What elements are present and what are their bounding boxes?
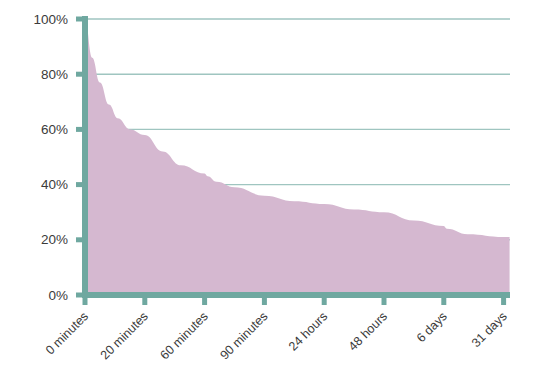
y-tick-label: 60% — [41, 122, 68, 137]
chart-canvas: 0%20%40%60%80%100% 0 minutes20 minutes60… — [0, 0, 535, 390]
y-tick-label: 40% — [41, 177, 68, 192]
y-tick-label: 100% — [33, 12, 68, 27]
y-tick-label: 80% — [41, 67, 68, 82]
y-tick-label: 20% — [41, 232, 68, 247]
chart-background — [0, 0, 535, 390]
forgetting-curve-chart: 0%20%40%60%80%100% 0 minutes20 minutes60… — [0, 0, 535, 390]
y-tick-label: 0% — [48, 288, 68, 303]
